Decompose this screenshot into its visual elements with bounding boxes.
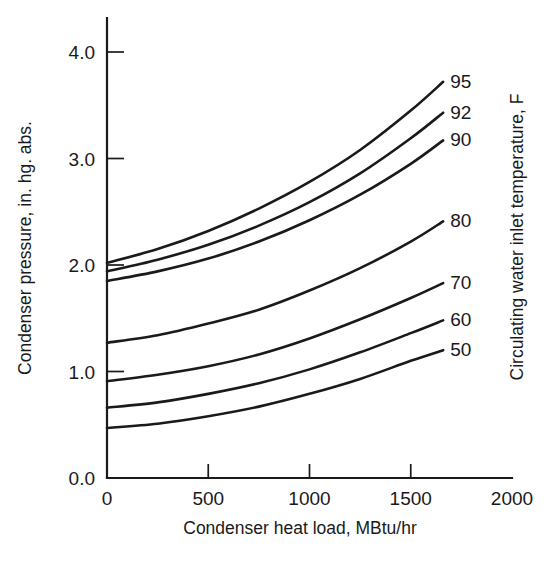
y-axis-tick-labels: 0.01.02.03.04.0 [69, 42, 95, 489]
curve-end-labels: 95929080706050 [450, 71, 471, 360]
y-tick-label: 2.0 [69, 255, 95, 276]
y-axis-ticks [107, 52, 124, 372]
x-tick-label: 2000 [491, 488, 533, 509]
curve-label-60: 60 [450, 309, 471, 330]
x-tick-label: 1500 [390, 488, 432, 509]
curve-92 [107, 113, 443, 272]
y-tick-label: 4.0 [69, 42, 95, 63]
x-axis-title: Condenser heat load, MBtu/hr [183, 518, 417, 538]
data-curves [107, 82, 443, 428]
y-axis-title: Condenser pressure, in. hg. abs. [15, 121, 35, 375]
curve-label-50: 50 [450, 339, 471, 360]
x-tick-label: 500 [192, 488, 224, 509]
condenser-pressure-chart: 0.01.02.03.04.0 0500100015002000 9592908… [0, 0, 553, 562]
curve-80 [107, 221, 443, 342]
curve-60 [107, 320, 443, 407]
curve-label-92: 92 [450, 102, 471, 123]
curve-50 [107, 350, 443, 428]
secondary-y-axis-title: Circulating water inlet temperature, F [507, 94, 527, 381]
chart-figure: 0.01.02.03.04.0 0500100015002000 9592908… [0, 0, 553, 562]
x-axis-ticks [208, 464, 411, 478]
y-tick-label: 1.0 [69, 362, 95, 383]
curve-label-90: 90 [450, 129, 471, 150]
curve-label-80: 80 [450, 210, 471, 231]
x-tick-label: 0 [102, 488, 113, 509]
curve-label-95: 95 [450, 71, 471, 92]
x-axis-tick-labels: 0500100015002000 [102, 488, 533, 509]
y-tick-label: 3.0 [69, 149, 95, 170]
curve-label-70: 70 [450, 272, 471, 293]
x-tick-label: 1000 [288, 488, 330, 509]
y-tick-label: 0.0 [69, 468, 95, 489]
